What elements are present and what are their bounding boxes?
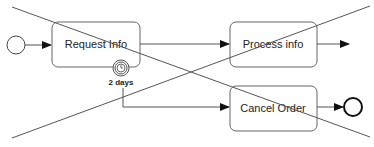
start-event[interactable] xyxy=(7,36,25,54)
task-cancel-order[interactable]: Cancel Order xyxy=(230,86,317,131)
timer-label: 2 days xyxy=(109,78,134,87)
task-label: Request Info xyxy=(65,38,127,50)
bpmn-diagram: Request Info Process info Cancel Order 2… xyxy=(0,0,374,147)
task-label: Process info xyxy=(243,38,304,50)
task-label: Cancel Order xyxy=(240,102,306,114)
end-event[interactable] xyxy=(344,98,362,116)
task-request-info[interactable]: Request Info xyxy=(52,22,140,67)
task-process-info[interactable]: Process info xyxy=(230,22,317,67)
